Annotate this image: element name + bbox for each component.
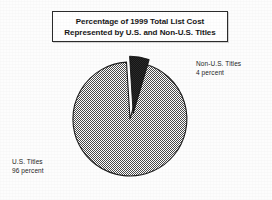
label-us-value: 96 percent [12, 166, 44, 175]
label-non-us-titles: Non-U.S. Titles 4 percent [196, 59, 241, 77]
chart-page: Percentage of 1999 Total List Cost Repre… [0, 0, 272, 200]
label-us-name: U.S. Titles [12, 157, 44, 166]
label-non-us-value: 4 percent [196, 68, 241, 77]
pie-slice-us [73, 62, 187, 176]
label-us-titles: U.S. Titles 96 percent [12, 157, 44, 175]
label-non-us-name: Non-U.S. Titles [196, 59, 241, 68]
